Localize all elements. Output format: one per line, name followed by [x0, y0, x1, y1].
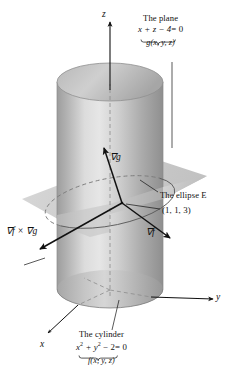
cylinder-callout: The cylinder x2 + y2 − 2= 0 f(x, y, z) [76, 330, 127, 365]
plane-callout: The plane x + z − 4= 0 g(x, y, z) [138, 14, 183, 47]
grad-g-label: ∇g [110, 152, 121, 163]
cyl-eq-rhs: = 0 [115, 342, 127, 352]
plane-equation-lhs: x + z − 4 [138, 24, 171, 34]
grad-cross-label: ∇f × ∇g [6, 226, 37, 237]
cylinder-underbrace-label: f(x, y, z) [76, 356, 127, 365]
x-axis [48, 305, 78, 333]
plane-callout-title: The plane [138, 14, 183, 24]
cylinder-callout-title: The cylinder [76, 330, 127, 340]
cross-leader [24, 258, 45, 265]
z-axis-label: z [102, 9, 106, 20]
point-coordinates-label: (1, 1, 3) [162, 206, 191, 216]
y-axis [151, 297, 213, 299]
plane-equation-rhs: = 0 [171, 24, 183, 34]
x-axis-label: x [40, 339, 44, 350]
plane-equation: x + z − 4= 0 [138, 25, 183, 35]
cyl-eq-mid: + y [83, 342, 98, 352]
cylinder-equation: x2 + y2 − 2= 0 [76, 341, 127, 353]
plane-underbrace-label: g(x, y, z) [138, 38, 183, 47]
ellipse-label: The ellipse E [160, 191, 207, 201]
cyl-eq-xb: − 2 [101, 342, 115, 352]
y-axis-label: y [216, 292, 220, 303]
grad-f-label: ∇f [146, 227, 155, 238]
figure-canvas [0, 0, 229, 376]
